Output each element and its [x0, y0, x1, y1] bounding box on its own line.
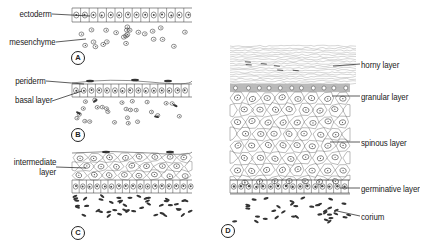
label-spinous-layer: spinous layer	[361, 138, 407, 148]
panel-a-drawing	[72, 8, 192, 49]
label-granular-layer: granular layer	[361, 92, 408, 102]
skin-development-illustration	[0, 0, 429, 248]
panel-label-a: A	[71, 51, 85, 65]
label-mesenchyme: mesenchyme	[10, 37, 56, 47]
panel-c-drawing	[72, 151, 193, 219]
panel-b-drawing	[72, 79, 192, 125]
panel-label-d: D	[221, 224, 235, 238]
label-intermediate-layer: layer	[39, 167, 56, 177]
label-corium: corium	[361, 212, 384, 222]
label-ectoderm: ectoderm	[20, 9, 52, 19]
label-germinative-layer: germinative layer	[361, 184, 420, 194]
label-basal-layer: basal layer	[15, 95, 52, 105]
label-periderm: periderm	[15, 76, 46, 86]
panel-label-c: C	[71, 226, 85, 240]
label-intermediate: intermediate	[13, 157, 56, 167]
panel-label-b: B	[71, 128, 85, 142]
label-horny-layer: horny layer	[361, 60, 399, 70]
panel-d-drawing	[230, 45, 356, 224]
